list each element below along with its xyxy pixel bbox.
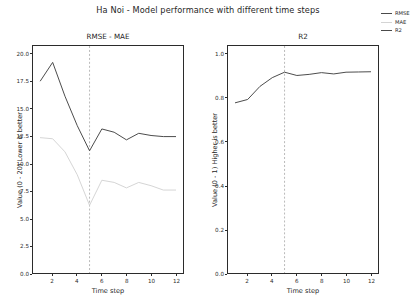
y-tick-label: 5.0 — [20, 216, 29, 222]
legend: RMSE MAE R2 — [381, 11, 410, 33]
y-tick-label: 0.4 — [215, 183, 224, 189]
y-tick-label: 15.0 — [17, 106, 29, 112]
panel-title-r2: R2 — [227, 32, 379, 41]
y-tick-label: 0.6 — [215, 139, 224, 145]
x-tick-label: 2 — [245, 278, 249, 284]
y-tick-mark — [225, 141, 227, 142]
legend-swatch-r2 — [381, 30, 392, 31]
y-tick-label: 7.5 — [20, 188, 29, 194]
x-tick-mark — [296, 274, 297, 276]
x-tick-mark — [151, 274, 152, 276]
axes-r2 — [227, 45, 379, 274]
y-tick-mark — [30, 274, 32, 275]
x-tick-label: 10 — [148, 278, 155, 284]
legend-item-r2: R2 — [381, 28, 410, 33]
x-tick-label: 8 — [125, 278, 129, 284]
y-tick-mark — [225, 230, 227, 231]
y-tick-label: 1.0 — [215, 51, 224, 57]
plot-area-r2 — [228, 46, 378, 273]
y-tick-mark — [30, 191, 32, 192]
y-tick-label: 12.5 — [17, 133, 29, 139]
legend-swatch-rmse — [381, 13, 392, 14]
panel-rmse-mae: RMSE - MAE Value (0 - 20) Lower is bette… — [32, 45, 184, 274]
x-tick-label: 4 — [75, 278, 79, 284]
legend-label-mae: MAE — [395, 20, 406, 25]
y-tick-label: 0.2 — [215, 227, 224, 233]
x-tick-label: 12 — [368, 278, 375, 284]
figure-canvas: Ha Noi - Model performance with differen… — [0, 0, 416, 308]
y-tick-mark — [30, 219, 32, 220]
x-tick-label: 10 — [343, 278, 350, 284]
x-tick-mark — [101, 274, 102, 276]
legend-label-rmse: RMSE — [395, 11, 410, 16]
x-tick-label: 6 — [100, 278, 104, 284]
legend-label-r2: R2 — [395, 28, 402, 33]
y-tick-mark — [30, 81, 32, 82]
y-tick-label: 20.0 — [17, 51, 29, 57]
legend-item-mae: MAE — [381, 20, 410, 25]
x-tick-label: 2 — [50, 278, 54, 284]
panel-r2: R2 Value (0 - 1) Higher is better Time s… — [227, 45, 379, 274]
x-tick-mark — [321, 274, 322, 276]
axes-rmse-mae — [32, 45, 184, 274]
y-tick-mark — [30, 108, 32, 109]
y-tick-mark — [30, 53, 32, 54]
x-tick-label: 6 — [295, 278, 299, 284]
y-tick-label: 0.0 — [20, 271, 29, 277]
x-tick-mark — [271, 274, 272, 276]
y-tick-label: 10.0 — [17, 161, 29, 167]
y-tick-label: 0.8 — [215, 95, 224, 101]
x-axis-label-right: Time step — [227, 287, 379, 295]
y-tick-mark — [30, 246, 32, 247]
y-tick-label: 17.5 — [17, 78, 29, 84]
x-tick-label: 4 — [270, 278, 274, 284]
y-tick-label: 2.5 — [20, 243, 29, 249]
y-axis-label-right: Value (0 - 1) Higher is better — [211, 80, 219, 240]
x-tick-label: 8 — [320, 278, 324, 284]
y-tick-mark — [30, 164, 32, 165]
plot-area-rmse-mae — [33, 46, 183, 273]
x-tick-mark — [126, 274, 127, 276]
x-tick-mark — [247, 274, 248, 276]
x-tick-label: 12 — [173, 278, 180, 284]
y-tick-mark — [225, 97, 227, 98]
y-tick-mark — [225, 53, 227, 54]
x-tick-mark — [346, 274, 347, 276]
y-tick-mark — [30, 136, 32, 137]
x-axis-label-left: Time step — [32, 287, 184, 295]
y-tick-mark — [225, 186, 227, 187]
figure-title: Ha Noi - Model performance with differen… — [0, 5, 416, 15]
panel-title-rmse-mae: RMSE - MAE — [32, 32, 184, 41]
x-tick-mark — [76, 274, 77, 276]
legend-item-rmse: RMSE — [381, 11, 410, 16]
x-tick-mark — [52, 274, 53, 276]
y-tick-mark — [225, 274, 227, 275]
x-tick-mark — [176, 274, 177, 276]
legend-swatch-mae — [381, 22, 392, 23]
x-tick-mark — [371, 274, 372, 276]
y-tick-label: 0.0 — [215, 271, 224, 277]
